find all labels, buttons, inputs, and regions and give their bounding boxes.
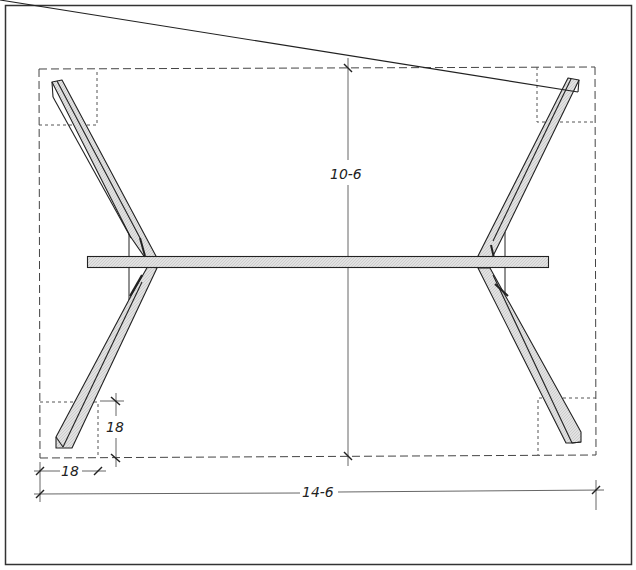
depth-dimension-label: 10-6: [330, 166, 362, 182]
corner-depth-label: 18: [106, 419, 124, 435]
right-lower-leg: [478, 268, 581, 443]
width-dimension-label: 14-6: [302, 484, 334, 500]
sheet-border: [6, 6, 632, 565]
right-upper-leg: [478, 78, 579, 262]
right-leg-assembly: [0, 0, 581, 443]
corner-width-label: 18: [61, 463, 79, 479]
center-stretcher-beam: [88, 257, 549, 268]
drawing-sheet: 10-6 14-6 18 18: [0, 0, 636, 570]
